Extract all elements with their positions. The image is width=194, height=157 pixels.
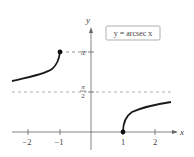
tick-label-2: 2 xyxy=(153,137,157,147)
tick-label-pi-half-den: 2 xyxy=(81,92,85,100)
tick-label-minus-2: −2 xyxy=(22,137,31,147)
function-label: y = arcsec x xyxy=(114,29,153,38)
tick-label-minus-1: −1 xyxy=(54,137,63,147)
curve-right-branch xyxy=(123,102,171,132)
x-axis-label: x xyxy=(179,127,184,137)
endpoint-right-dot xyxy=(121,130,126,135)
y-axis-arrow-icon xyxy=(89,27,93,33)
tick-label-pi-half-num: π xyxy=(81,83,85,91)
tick-label-1: 1 xyxy=(121,137,125,147)
arcsec-graph: y x −2 −1 1 2 π π 2 y = arcsec x xyxy=(0,0,194,157)
curve-left-branch xyxy=(12,52,60,81)
x-axis-arrow-icon xyxy=(172,130,178,134)
y-axis-label: y xyxy=(85,15,90,25)
tick-label-pi: π xyxy=(81,47,86,57)
endpoint-left-dot xyxy=(58,50,63,55)
